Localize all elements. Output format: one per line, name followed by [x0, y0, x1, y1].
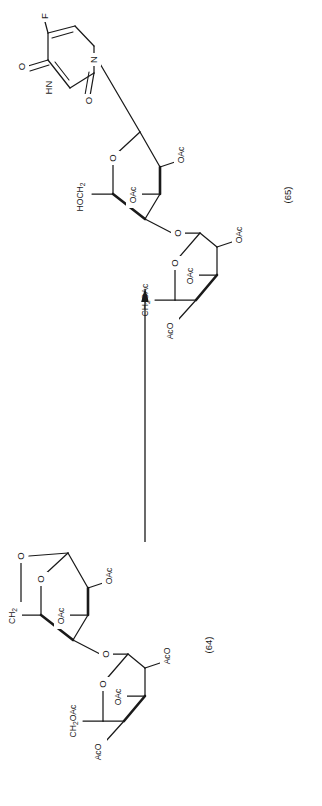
label-aco-b65-bottom: AcO — [165, 322, 175, 339]
label-oac-a64-mid: OAc — [56, 607, 66, 624]
label-hoch2: HOCH2 — [75, 182, 85, 211]
atom-n3: HN — [43, 81, 54, 95]
atom-carbonyl-4: O — [16, 63, 27, 70]
ring-oxygen-b64: O — [97, 680, 108, 687]
anhydro-bridge-oxygen: O — [15, 552, 26, 559]
fluorouracil-base: F N HN O O — [15, 10, 140, 132]
compound-label-64: (64) — [203, 637, 214, 654]
atom-carbonyl-2: O — [83, 97, 94, 104]
compound-label-65: (65) — [282, 187, 293, 204]
ring-oxygen-a64: O — [35, 575, 46, 582]
label-ch2oac-b64: CH2OAc — [68, 704, 78, 738]
label-oac-a65-upper: OAc — [176, 146, 186, 163]
ring-oxygen-a65: O — [107, 154, 118, 161]
compound64-ring-a: O O CH2 OAc OAc — [5, 549, 118, 654]
reaction-arrow — [141, 288, 149, 542]
structure-svg: F N HN O O O — [0, 0, 322, 806]
ring-oxygen-b65: O — [169, 259, 180, 266]
glycosidic-oxygen-65: O — [172, 229, 183, 236]
label-oac-a64-upper: OAc — [104, 567, 114, 584]
compound65-ring-a: O HOCH2 OAc OAc — [72, 132, 190, 233]
glycosidic-oxygen-64: O — [100, 650, 111, 657]
label-oac-b65-mid: OAc — [185, 267, 195, 284]
atom-fluorine: F — [39, 13, 50, 19]
label-aco-b64-bottom: AcO — [93, 743, 103, 760]
compound65-ring-b: O OAc OAc CH2OAc AcO — [137, 222, 248, 344]
compound64-ring-b: O AcO OAc CH2OAc AcO — [65, 643, 176, 765]
atom-n1: N — [88, 56, 99, 63]
label-aco-b64-right: AcO — [162, 647, 172, 664]
label-oac-a65-mid: OAc — [128, 186, 138, 203]
chemical-scheme-canvas: F N HN O O O — [0, 0, 322, 806]
label-oac-b64-mid: OAc — [113, 688, 123, 705]
label-oac-b65-right: OAc — [234, 226, 244, 243]
